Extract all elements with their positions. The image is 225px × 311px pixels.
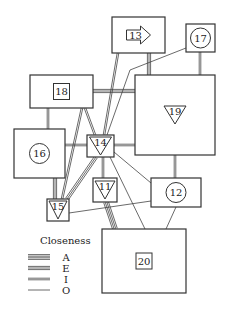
legend-item-E: E [28,263,70,274]
node-label: 16 [33,148,46,159]
node-label: 12 [170,187,183,198]
edge-17-19 [199,52,201,75]
edge-18-16 [47,108,49,129]
node-label: 14 [94,137,107,148]
edge-18-14 [84,108,96,136]
legend-item-I: I [28,274,68,285]
node-18: 18 [30,75,93,108]
node-label: 17 [194,33,207,44]
node-label: 13 [129,30,142,41]
closeness-legend: Closeness AEIO [28,235,91,296]
legend-code: E [62,263,69,274]
node-11: 11 [93,178,117,202]
node-label: 20 [138,256,151,267]
edge-19-12 [174,155,176,178]
node-14: 14 [87,135,114,157]
edge-14-19 [114,144,135,146]
edge-16-14 [65,144,87,146]
edge-14-12 [114,152,151,183]
closeness-diagram: 13171819161411121520 Closeness AEIO [0,0,225,311]
legend-item-A: A [28,252,70,263]
edge-18-19 [93,89,135,92]
edge-12-20 [166,207,176,229]
edge-14-11 [102,157,104,178]
node-label: 15 [52,201,65,212]
node-19: 19 [135,75,215,155]
node-label: 19 [169,106,182,117]
node-16: 16 [14,129,65,178]
edge-13-19 [147,53,150,75]
node-layer: 13171819161411121520 [14,17,215,293]
legend-title: Closeness [40,235,91,246]
legend-item-O: O [28,285,70,296]
node-17: 17 [186,24,215,52]
node-label: 18 [55,86,68,97]
legend-code: I [64,274,68,285]
edge-16-15 [53,178,56,199]
node-12: 12 [151,178,201,207]
node-label: 11 [99,181,112,192]
node-13: 13 [112,17,165,53]
legend-code: O [62,285,70,296]
node-20: 20 [102,229,186,293]
legend-code: A [61,252,70,263]
edge-11-20 [104,201,118,230]
node-15: 15 [47,199,69,221]
